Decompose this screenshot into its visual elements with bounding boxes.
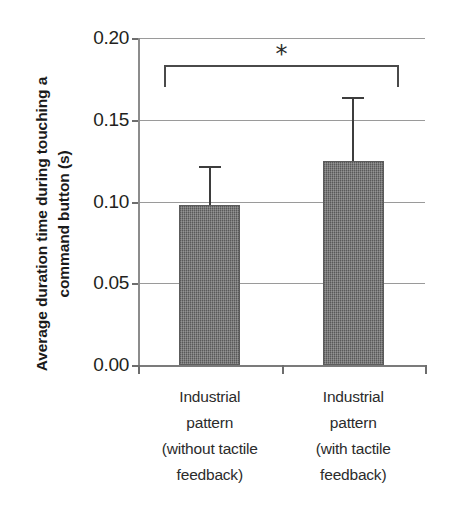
gridline [138,120,425,121]
significance-bracket [164,65,400,87]
bar [179,205,240,365]
x-axis-category-label-line: Industrial [126,384,294,410]
error-bar-cap [199,166,221,168]
bar [323,161,384,365]
y-axis-line [138,38,140,365]
bar-chart-figure: Average duration time during touching a … [0,0,449,512]
x-axis-category-label-line: pattern [270,410,438,436]
x-axis-tick [425,365,427,374]
x-axis-category-label-line: feedback) [270,462,438,488]
y-axis-title: Average duration time during touching a … [31,44,81,404]
x-axis-tick [138,365,140,374]
y-axis-tick-label: 0.20 [93,27,129,49]
x-axis-category-label-line: feedback) [126,462,294,488]
x-axis-category-label-line: (with tactile [270,436,438,462]
error-bar [352,97,354,161]
x-axis-category-label: Industrialpattern(with tactilefeedback) [270,384,438,488]
error-bar [209,166,211,205]
plot-area: 0.000.050.100.150.20* [138,38,425,365]
x-axis-category-label-line: (without tactile [126,436,294,462]
y-axis-tick-label: 0.05 [93,272,129,294]
y-axis-tick-label: 0.15 [93,109,129,131]
x-axis-category-label: Industrialpattern(without tactilefeedbac… [126,384,294,488]
error-bar-cap [342,97,364,99]
gridline [138,38,425,39]
y-axis-tick-label: 0.00 [93,354,129,376]
x-axis-category-label-line: Industrial [270,384,438,410]
x-axis-tick [282,365,284,374]
y-axis-tick-label: 0.10 [93,191,129,213]
significance-asterisk: * [276,42,288,66]
x-axis-category-label-line: pattern [126,410,294,436]
